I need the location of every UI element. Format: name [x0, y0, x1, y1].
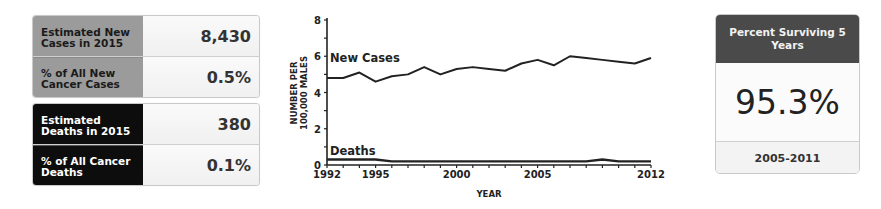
annotation-new-cases: New Cases	[330, 51, 400, 65]
stat-label: % of All New Cancer Cases	[33, 57, 143, 97]
x-tick-label: 2005	[524, 169, 552, 180]
stat-value: 8,430	[143, 16, 259, 56]
y-tick-label: 6	[314, 51, 321, 62]
x-tick-label: 1992	[313, 169, 341, 180]
svg-text:100,000 MALES: 100,000 MALES	[299, 56, 309, 130]
series-line-deaths	[327, 160, 651, 162]
stat-value: 0.5%	[143, 57, 259, 97]
stat-value: 0.1%	[143, 145, 259, 185]
survival-title: Percent Surviving 5 Years	[716, 15, 859, 63]
stat-label: Estimated New Cases in 2015	[33, 16, 143, 56]
survival-value: 95.3%	[716, 63, 859, 141]
chart-axes: 0246819921995200020052012YEAR	[313, 15, 665, 199]
y-tick-label: 4	[314, 88, 321, 99]
annotation-deaths: Deaths	[330, 144, 376, 158]
stat-row-percent-deaths: % of All Cancer Deaths 0.1%	[33, 144, 259, 185]
x-axis-label: YEAR	[475, 189, 502, 199]
stat-value: 380	[143, 104, 259, 144]
stat-row-new-cases: Estimated New Cases in 2015 8,430	[33, 16, 259, 56]
y-axis-label: NUMBER PER100,000 MALES	[289, 56, 309, 130]
x-tick-label: 2000	[443, 169, 471, 180]
stat-row-deaths: Estimated Deaths in 2015 380	[33, 104, 259, 144]
stat-row-percent-new-cases: % of All New Cancer Cases 0.5%	[33, 56, 259, 97]
y-tick-label: 8	[314, 15, 321, 26]
deaths-card: Estimated Deaths in 2015 380 % of All Ca…	[32, 103, 260, 186]
survival-card: Percent Surviving 5 Years 95.3% 2005-201…	[715, 14, 860, 174]
new-cases-card: Estimated New Cases in 2015 8,430 % of A…	[32, 15, 260, 98]
svg-text:NUMBER PER: NUMBER PER	[289, 61, 299, 124]
survival-period: 2005-2011	[716, 141, 859, 174]
x-tick-label: 1995	[362, 169, 390, 180]
stat-label: Estimated Deaths in 2015	[33, 104, 143, 144]
stat-label: % of All Cancer Deaths	[33, 145, 143, 185]
y-tick-label: 2	[314, 124, 321, 135]
x-tick-label: 2012	[637, 169, 665, 180]
trend-chart: NUMBER PER100,000 MALES 0246819921995200…	[270, 0, 700, 209]
chart-labels: New CasesDeaths	[330, 51, 400, 157]
